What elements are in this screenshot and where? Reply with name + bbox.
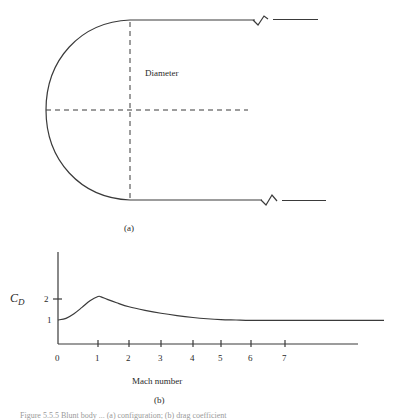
panel-a-diagram: Diameter <box>46 16 326 205</box>
panel-b-label: (b) <box>154 395 165 405</box>
panel-b-chart: 01234567 12 CD Mach number <box>10 252 384 386</box>
top-break-symbol <box>253 16 268 25</box>
y-tick-label: 1 <box>47 315 52 325</box>
cd-curve-line <box>58 296 384 320</box>
x-tick-label: 2 <box>126 353 131 363</box>
x-tick-label: 4 <box>190 353 195 363</box>
figure-canvas: Diameter (a) 01234567 12 CD Mach number … <box>0 0 400 420</box>
panel-a-label: (a) <box>124 223 134 233</box>
x-tick-label: 3 <box>158 353 163 363</box>
x-tick-label: 5 <box>218 353 223 363</box>
x-tick-label: 6 <box>248 353 253 363</box>
y-tick-label: 2 <box>44 294 49 304</box>
x-axis-label: Mach number <box>132 376 182 386</box>
x-tick-label: 0 <box>55 353 60 363</box>
figure-caption: Figure 5.5.5 Blunt body ... (a) configur… <box>20 411 227 420</box>
y-axis-label: CD <box>10 291 25 307</box>
x-tick-label: 7 <box>282 353 287 363</box>
x-tick-label: 1 <box>95 353 100 363</box>
diameter-label: Diameter <box>145 68 178 78</box>
bottom-break-symbol <box>261 195 277 205</box>
